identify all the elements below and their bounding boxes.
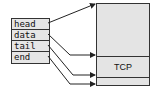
end-pointer-arrow (48, 56, 95, 84)
pointer-arrows (0, 0, 160, 94)
data-pointer-arrow (48, 34, 95, 55)
tail-pointer-arrow (48, 45, 95, 75)
head-pointer-arrow (48, 4, 95, 23)
